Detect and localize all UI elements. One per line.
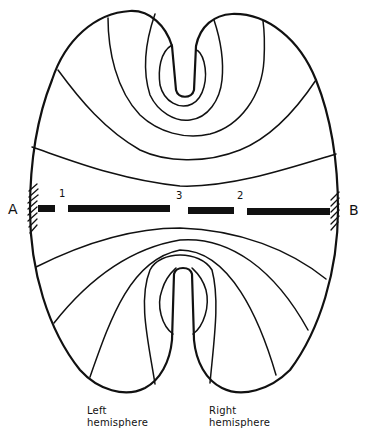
lower-field-lines [36, 228, 326, 384]
caption-left-hemisphere: Left hemisphere [87, 405, 148, 429]
electrode-line [38, 205, 330, 215]
marker-2: 2 [237, 189, 243, 202]
electrode-a-hatching [28, 184, 38, 233]
label-b: B [349, 204, 359, 217]
caption-right-hemisphere: Right hemisphere [209, 405, 270, 429]
label-a: A [8, 203, 18, 216]
marker-1: 1 [59, 187, 65, 200]
caption-left-line2: hemisphere [87, 417, 148, 429]
brain-field-diagram [0, 0, 366, 439]
caption-right-line1: Right [209, 405, 270, 417]
marker-3: 3 [176, 189, 182, 202]
outer-outline [30, 11, 338, 392]
caption-right-line2: hemisphere [209, 417, 270, 429]
caption-left-line1: Left [87, 405, 148, 417]
